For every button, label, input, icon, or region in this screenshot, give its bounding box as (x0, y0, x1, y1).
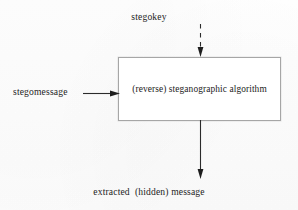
diagram-canvas: stegokey (reverse) steganographic algori… (0, 0, 298, 210)
output-arrow-icon (186, 120, 214, 180)
algorithm-box-label: (reverse) steganographic algorithm (119, 58, 280, 120)
stegomessage-arrow (83, 83, 121, 103)
stegokey-arrow-icon (186, 24, 214, 58)
stegomessage-label: stegomessage (13, 87, 68, 97)
output-arrow (186, 120, 214, 180)
stegomessage-arrow-icon (83, 83, 121, 103)
output-label: extracted (hidden) message (0, 187, 298, 197)
stegokey-arrow (186, 24, 214, 58)
stegokey-label: stegokey (0, 12, 298, 22)
algorithm-box: (reverse) steganographic algorithm (118, 57, 281, 121)
